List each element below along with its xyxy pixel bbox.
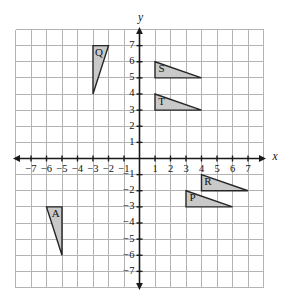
x-tick-label: −7 [25,163,36,174]
x-tick-label: 7 [245,163,250,174]
y-tick-label: 2 [129,120,134,131]
x-tick-label: 5 [214,163,219,174]
axes [13,27,266,290]
x-axis-label: x [271,150,278,162]
x-tick-label: 4 [199,163,205,174]
x-tick-label: 2 [168,163,173,174]
triangle-label-s: S [158,62,164,74]
y-tick-label: 3 [129,104,134,115]
y-tick-label: 7 [129,39,134,50]
x-tick-label: −5 [56,163,67,174]
y-tick-label: −1 [123,168,134,179]
y-tick-label: −7 [123,265,134,276]
y-tick-label: −6 [123,249,134,260]
y-tick-label: 6 [129,55,134,66]
x-tick-label: 6 [230,163,235,174]
y-tick-label: −3 [123,200,134,211]
y-tick-label: −5 [123,233,134,244]
x-tick-label: 1 [152,163,157,174]
y-tick-label: 4 [129,87,135,98]
x-axis-arrow-right [259,155,266,162]
triangle-label-t: T [158,95,165,107]
coordinate-plane-svg: −7−6−5−4−3−2−112345677654321−1−2−3−4−5−6… [0,0,284,301]
x-tick-label: −2 [103,163,114,174]
triangle-label-p: P [189,191,195,203]
y-tick-label: 1 [129,136,134,147]
y-tick-label: 5 [129,71,134,82]
x-tick-label: −4 [72,163,84,174]
y-axis-label: y [137,11,144,24]
y-axis-arrow-top [136,27,143,34]
x-tick-label: −3 [87,163,98,174]
triangle-label-a: A [52,207,60,219]
x-tick-label: −6 [41,163,52,174]
y-tick-label: −2 [123,184,134,195]
y-tick-label: −4 [123,216,135,227]
x-axis-arrow-left [13,155,20,162]
axis-names: xy [137,11,279,163]
x-tick-label: 3 [183,163,188,174]
y-axis-arrow-bottom [136,283,143,290]
triangle-label-q: Q [95,46,103,58]
triangle-shapes [47,46,249,256]
triangle-label-r: R [204,175,212,187]
coordinate-plane-figure: −7−6−5−4−3−2−112345677654321−1−2−3−4−5−6… [0,0,284,301]
